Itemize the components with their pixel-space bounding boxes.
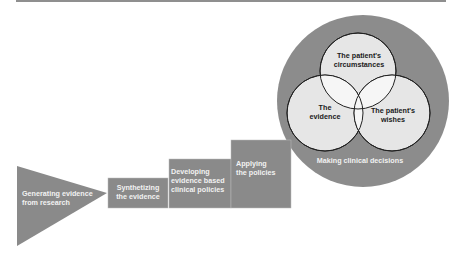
venn-label-evidence-2: evidence: [310, 112, 341, 121]
step-developing-label-2: evidence based: [171, 176, 225, 185]
step-synthetizing-label-2: the evidence: [116, 192, 160, 201]
venn-label-evidence-1: The: [319, 103, 332, 112]
step-generating-label-1: Generating evidence: [22, 189, 93, 198]
step-synthetizing-label-1: Synthetizing: [117, 183, 160, 192]
venn-label-circumstances-1: The patient's: [337, 51, 381, 60]
venn-label-wishes-1: The patient's: [371, 106, 415, 115]
venn-label-wishes-2: wishes: [380, 115, 405, 124]
step-applying-label-1: Applying: [236, 159, 267, 168]
step-generating-label-2: from research: [22, 198, 70, 207]
step-applying-label-2: the policies: [236, 168, 276, 177]
decision-label: Making clinical decisions: [317, 156, 403, 165]
step-developing-label-3: clinical policies: [171, 185, 224, 194]
venn-label-circumstances-2: circumstances: [334, 60, 384, 69]
evidence-based-practice-diagram: The patient's circumstances The evidence…: [0, 0, 463, 256]
step-developing-label-1: Developing: [171, 167, 210, 176]
